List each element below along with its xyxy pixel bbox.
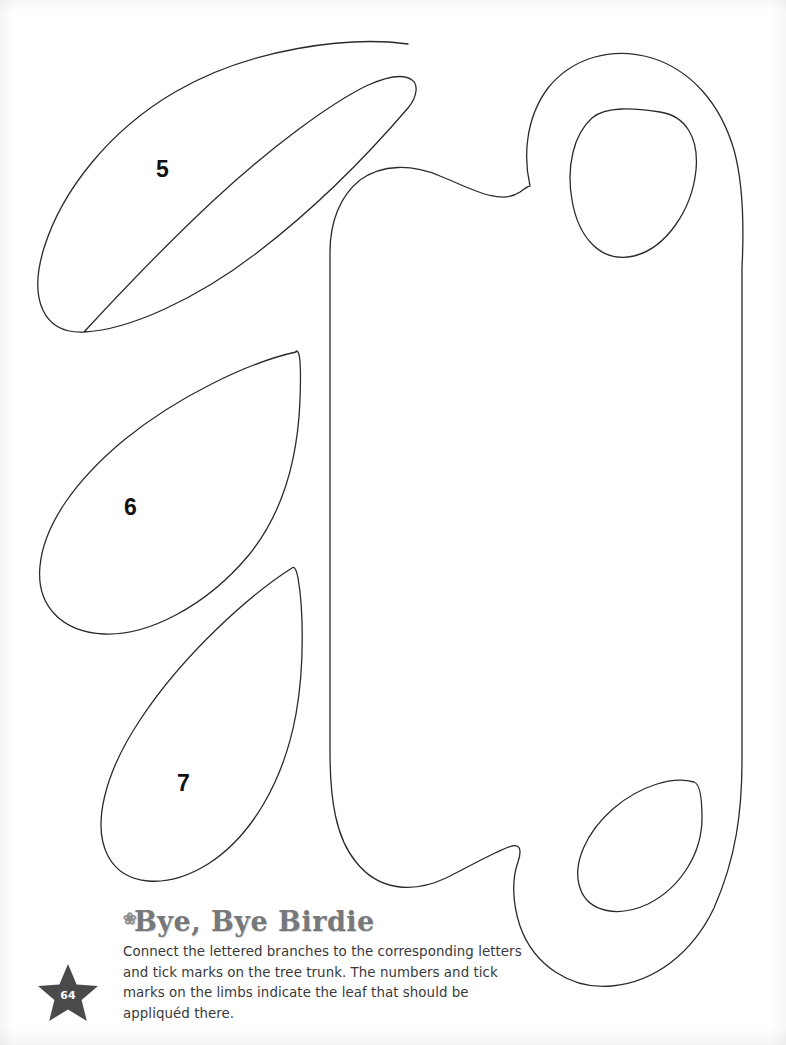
- pattern-artwork: [0, 0, 786, 1045]
- trunk-outline: [330, 53, 743, 986]
- pattern-page: 5 6 7 ❀Bye, Bye Birdie Connect the lette…: [0, 0, 786, 1045]
- title-ornament-1: ❀: [123, 909, 134, 928]
- caption-block: ❀Bye, Bye Birdie Connect the lettered br…: [123, 908, 523, 1024]
- page-number-label: 64: [36, 962, 100, 1024]
- trunk-inner-leaf-bottom-outline: [578, 780, 702, 911]
- leaf-7-number: 7: [177, 772, 190, 795]
- caption-title-text: Bye, Bye Birdie: [134, 906, 375, 937]
- leaf-5-outline: [38, 42, 416, 332]
- page-number-badge: 64: [36, 962, 100, 1024]
- leaf-5-number: 5: [156, 158, 169, 181]
- caption-title: ❀Bye, Bye Birdie: [123, 908, 523, 936]
- caption-body: Connect the lettered branches to the cor…: [123, 942, 523, 1024]
- leaf-6-outline: [40, 351, 301, 634]
- leaf-7-outline: [101, 567, 302, 881]
- trunk-inner-leaf-top-outline: [570, 109, 696, 257]
- leaf-6-number: 6: [124, 496, 137, 519]
